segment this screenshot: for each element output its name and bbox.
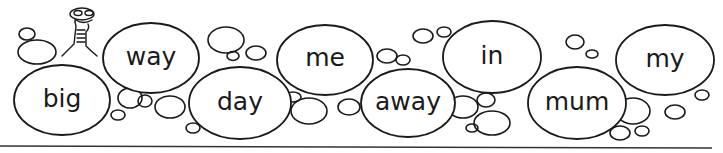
word-bubble-day[interactable]: day	[189, 67, 291, 139]
divider-line	[0, 146, 712, 148]
word-big: big	[43, 84, 82, 113]
word-in: in	[481, 41, 504, 70]
word-mum: mum	[545, 87, 610, 116]
word-day: day	[217, 87, 263, 116]
word-bubble-mum[interactable]: mum	[528, 67, 626, 139]
word-my: my	[645, 44, 684, 73]
word-bubble-big[interactable]: big	[14, 65, 110, 135]
word-way: way	[126, 42, 177, 71]
word-bubble-in[interactable]: in	[443, 21, 541, 93]
word-bubble-away[interactable]: away	[361, 69, 455, 137]
word-bubbles-strip: big day away mum way me in my	[0, 0, 723, 153]
word-bubble-me[interactable]: me	[277, 25, 373, 95]
word-bubble-way[interactable]: way	[103, 23, 199, 93]
word-away: away	[375, 87, 441, 116]
worm-icon	[62, 8, 97, 56]
word-bubble-my[interactable]: my	[616, 25, 714, 95]
word-me: me	[305, 43, 345, 72]
